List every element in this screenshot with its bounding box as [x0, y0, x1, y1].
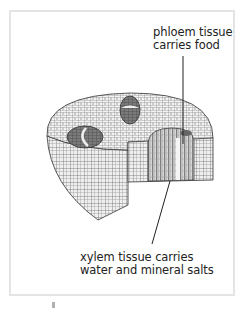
xylem-label-line-2: water and mineral salts: [80, 264, 214, 277]
phloem-label: phloem tissue carries food: [153, 26, 233, 52]
vascular-highlight: [176, 138, 180, 180]
vascular-bundle-right-dots: [180, 130, 192, 136]
xylem-pointer-line: [152, 181, 170, 244]
phloem-label-line-2: carries food: [153, 39, 233, 52]
vascular-bundle-cut: [148, 128, 194, 181]
xylem-label: xylem tissue carries water and mineral s…: [80, 251, 214, 277]
page-mark: [52, 302, 55, 308]
vascular-bundle-top: [120, 96, 140, 124]
